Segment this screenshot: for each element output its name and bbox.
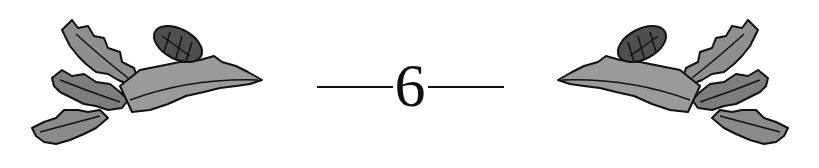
right-rule [428,86,504,88]
oak-leaf-acorn-icon [0,0,280,168]
left-rule [317,86,393,88]
chapter-number: 6 [393,54,428,116]
chapter-heading: 6 [300,40,520,130]
oak-leaf-acorn-icon [540,0,819,168]
